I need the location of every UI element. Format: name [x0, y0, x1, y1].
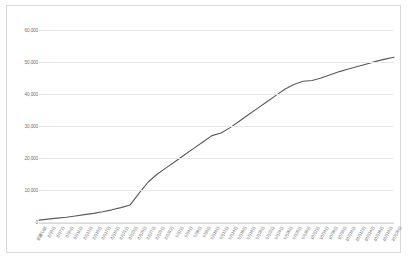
gridline [39, 30, 394, 31]
y-axis-tick-label: 40,000 [8, 92, 38, 97]
y-axis-tick-label: 0 [8, 220, 38, 225]
gridline [39, 62, 394, 63]
y-axis-tick-label: 20,000 [8, 156, 38, 161]
y-axis-tick-label: 30,000 [8, 124, 38, 129]
x-axis-baseline [39, 223, 394, 224]
plot-area [39, 30, 394, 222]
gridline [39, 126, 394, 127]
y-axis-tick-label: 10,000 [8, 188, 38, 193]
x-axis: 前週以前8月5日8月7日8月9日8月11日8月13日8月15日8月17日8月19… [39, 223, 394, 259]
chart-frame: 60,00050,00040,00030,00020,00010,0000 前週… [6, 5, 401, 253]
gridline [39, 94, 394, 95]
gridline [39, 190, 394, 191]
y-axis-tick-label: 50,000 [8, 60, 38, 65]
y-axis: 60,00050,00040,00030,00020,00010,0000 [7, 30, 38, 222]
y-axis-tick-label: 60,000 [8, 28, 38, 33]
gridline [39, 158, 394, 159]
